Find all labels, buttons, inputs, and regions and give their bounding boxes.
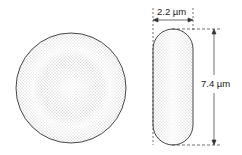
thickness-label: 2.2 µm bbox=[157, 6, 186, 17]
face-view-cell bbox=[16, 33, 126, 143]
diameter-label: 7.4 µm bbox=[201, 78, 230, 89]
side-view-cell bbox=[153, 29, 193, 145]
